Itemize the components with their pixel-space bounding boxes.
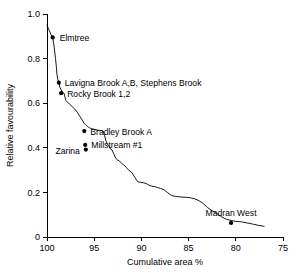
y-tick-label-4: 0.8 bbox=[27, 54, 40, 64]
data-point-marker-4 bbox=[83, 143, 87, 147]
x-tick-label-2: 90 bbox=[136, 243, 146, 253]
y-axis-group: 00.20.40.60.81.0 Relative favourability bbox=[5, 9, 47, 242]
y-tick-label-2: 0.4 bbox=[27, 143, 40, 153]
data-point-label-5: Zarina bbox=[56, 146, 81, 156]
series-group bbox=[47, 25, 264, 226]
chart-svg: 00.20.40.60.81.0 Relative favourability … bbox=[0, 0, 300, 273]
data-point-label-2: Rocky Brook 1,2 bbox=[67, 89, 130, 99]
data-point-label-1: Lavigna Brook A,B, Stephens Brook bbox=[65, 78, 202, 88]
x-axis-title: Cumulative area % bbox=[127, 257, 203, 267]
y-tick-label-3: 0.6 bbox=[27, 98, 40, 108]
data-point-marker-1 bbox=[57, 81, 61, 85]
y-tick-label-5: 1.0 bbox=[27, 9, 40, 19]
data-point-label-6: Madran West bbox=[206, 208, 258, 218]
y-axis-title: Relative favourability bbox=[5, 83, 15, 167]
data-point-marker-5 bbox=[84, 147, 88, 151]
x-tick-label-1: 95 bbox=[89, 243, 99, 253]
y-tick-label-0: 0 bbox=[35, 232, 40, 242]
data-point-label-0: Elmtree bbox=[60, 33, 90, 43]
x-tick-label-0: 100 bbox=[39, 243, 54, 253]
x-tick-label-3: 85 bbox=[184, 243, 194, 253]
data-point-marker-6 bbox=[229, 221, 233, 225]
x-tick-label-4: 80 bbox=[231, 243, 241, 253]
x-tick-label-5: 75 bbox=[278, 243, 288, 253]
annotation-group: ElmtreeLavigna Brook A,B, Stephens Brook… bbox=[51, 33, 258, 225]
data-point-marker-0 bbox=[51, 35, 55, 39]
y-tick-label-1: 0.2 bbox=[27, 188, 40, 198]
series-line-0 bbox=[47, 25, 264, 226]
y-tick-group: 00.20.40.60.81.0 bbox=[27, 9, 47, 242]
x-tick-group: 1009590858075 bbox=[39, 237, 288, 253]
data-point-marker-2 bbox=[59, 91, 63, 95]
data-point-marker-3 bbox=[82, 129, 86, 133]
x-axis-group: 1009590858075 Cumulative area % bbox=[39, 237, 288, 267]
data-point-label-4: Millstream #1 bbox=[91, 140, 142, 150]
favourability-chart: 00.20.40.60.81.0 Relative favourability … bbox=[0, 0, 300, 273]
data-point-label-3: Bradley Brook A bbox=[90, 127, 152, 137]
